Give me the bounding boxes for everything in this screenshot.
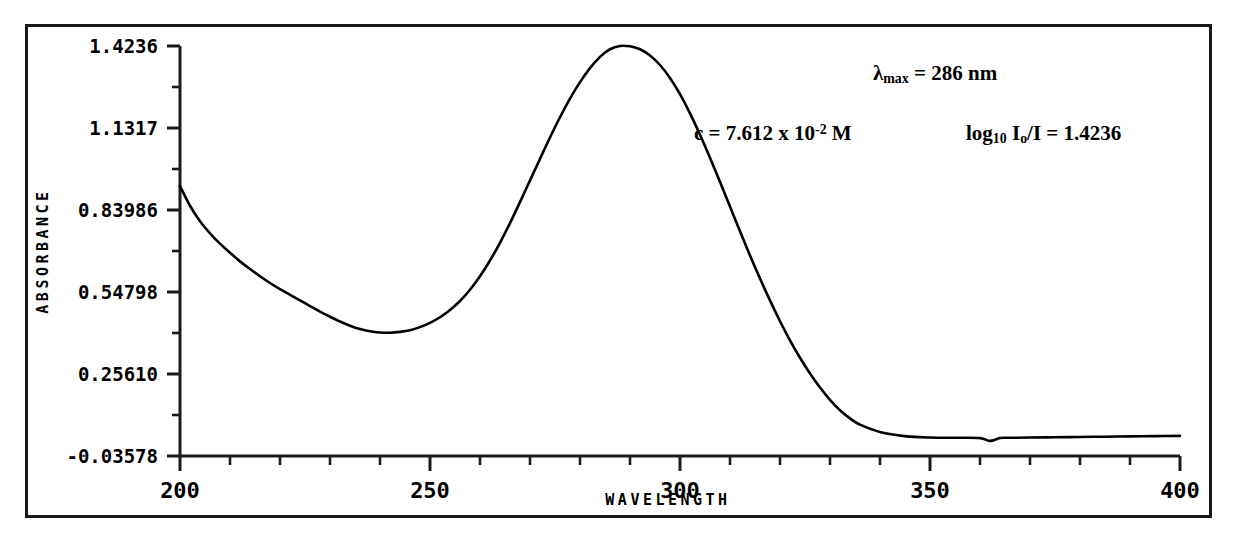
y-axis-tick-label: 0.54798 — [78, 281, 158, 303]
log-base: 10 — [993, 131, 1007, 146]
y-axis-tick-labels: 1.42361.13170.839860.547980.25610-0.0357… — [66, 35, 158, 467]
chart-page: 1.42361.13170.839860.547980.25610-0.0357… — [0, 0, 1234, 540]
concentration-exponent: -2 — [815, 122, 827, 137]
x-axis-tick-label: 250 — [410, 478, 450, 503]
annotation-log-ratio: log10 Io/I = 1.4236 — [966, 121, 1121, 147]
x-axis-tick-label: 350 — [910, 478, 950, 503]
spectrum-plot: 1.42361.13170.839860.547980.25610-0.0357… — [28, 27, 1209, 515]
x-axis-tick-label: 400 — [1160, 478, 1200, 503]
absorbance-curve — [180, 46, 1180, 441]
y-axis-title: ABSORBANCE — [34, 188, 52, 313]
y-axis-tick-label: 0.25610 — [78, 363, 158, 385]
annotation-concentration: c = 7.612 x 10-2 M — [694, 121, 852, 146]
io-subscript: o — [1020, 131, 1027, 146]
x-axis-tick-label: 200 — [160, 478, 200, 503]
y-axis-tick-label: 0.83986 — [78, 199, 158, 221]
y-axis-tick-label: 1.4236 — [89, 35, 158, 57]
y-axis-tick-label: 1.1317 — [89, 117, 158, 139]
annotation-lambda-max: λmax = 286 nm — [873, 61, 997, 87]
lambda-subscript: max — [883, 71, 908, 86]
y-axis-tick-label: -0.03578 — [66, 445, 158, 467]
lambda-symbol: λ — [873, 61, 883, 85]
chart-frame: 1.42361.13170.839860.547980.25610-0.0357… — [25, 24, 1212, 518]
x-axis-title: WAVELENGTH — [605, 491, 730, 509]
